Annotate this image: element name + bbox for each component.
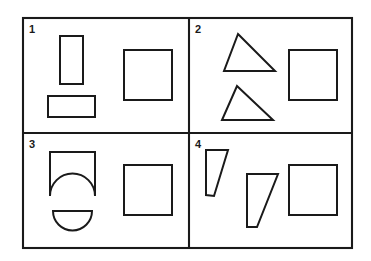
figure-canvas: 1 2 3 4	[0, 0, 371, 261]
panel-3-label: 3	[29, 138, 35, 150]
figure-drawing: 1 2 3 4	[0, 0, 371, 261]
panel-1-horizontal-rectangle	[48, 96, 95, 117]
panel-2-triangle-upper	[224, 34, 275, 71]
panel-3-reference-square	[124, 165, 172, 215]
panel-2-label: 2	[195, 23, 201, 35]
panel-4-reference-square	[289, 165, 337, 215]
panel-4-trapezoid-left	[206, 150, 228, 196]
panel-2-triangle-lower	[222, 86, 273, 120]
panel-1-reference-square	[124, 50, 172, 100]
panel-1-label: 1	[29, 23, 35, 35]
panel-1-vertical-rectangle	[60, 36, 83, 84]
panel-3-semicircle	[53, 211, 92, 231]
panel-4: 4	[195, 138, 337, 227]
panel-3-square-with-arc-base	[50, 152, 95, 196]
panel-3: 3	[29, 138, 172, 231]
panel-2: 2	[195, 23, 337, 120]
panel-4-label: 4	[195, 138, 202, 150]
panel-2-reference-square	[289, 50, 337, 100]
panel-4-trapezoid-right	[247, 174, 278, 227]
frame-group	[23, 18, 352, 248]
panel-1: 1	[29, 23, 172, 117]
